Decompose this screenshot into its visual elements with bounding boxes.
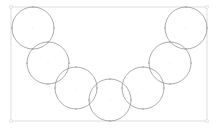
frame-corner-handle[interactable] bbox=[206, 6, 208, 8]
anchor-point[interactable] bbox=[75, 66, 76, 67]
anchor-point[interactable] bbox=[88, 99, 89, 100]
anchor-point[interactable] bbox=[32, 6, 33, 7]
anchor-point[interactable] bbox=[148, 62, 149, 63]
anchor-point[interactable] bbox=[54, 87, 55, 88]
anchor-point[interactable] bbox=[96, 87, 97, 88]
circle-group bbox=[11, 6, 207, 121]
bounding-frame bbox=[11, 7, 207, 121]
frame-corner-handle[interactable] bbox=[10, 120, 12, 122]
frame-corner-handle[interactable] bbox=[10, 6, 12, 8]
anchor-point[interactable] bbox=[185, 48, 186, 49]
anchor-point[interactable] bbox=[109, 120, 110, 121]
frame-corner-handle[interactable] bbox=[206, 120, 208, 122]
anchor-point[interactable] bbox=[47, 41, 48, 42]
anchor-point[interactable] bbox=[109, 78, 110, 79]
center-point bbox=[33, 28, 34, 29]
center-point bbox=[110, 100, 111, 101]
anchor-point[interactable] bbox=[164, 27, 165, 28]
anchor-point[interactable] bbox=[47, 83, 48, 84]
diagram-canvas bbox=[0, 0, 219, 128]
anchor-point[interactable] bbox=[26, 62, 27, 63]
anchor-point[interactable] bbox=[206, 27, 207, 28]
anchor-point[interactable] bbox=[169, 83, 170, 84]
center-point bbox=[186, 28, 187, 29]
anchor-point[interactable] bbox=[11, 27, 12, 28]
anchor-point[interactable] bbox=[142, 66, 143, 67]
anchor-point[interactable] bbox=[75, 108, 76, 109]
anchor-point[interactable] bbox=[163, 87, 164, 88]
anchor-point[interactable] bbox=[68, 62, 69, 63]
anchor-point[interactable] bbox=[190, 62, 191, 63]
center-point bbox=[48, 63, 49, 64]
center-point bbox=[76, 88, 77, 89]
anchor-point[interactable] bbox=[130, 99, 131, 100]
center-point bbox=[170, 63, 171, 64]
center-point bbox=[143, 88, 144, 89]
anchor-point[interactable] bbox=[142, 108, 143, 109]
anchor-point[interactable] bbox=[185, 6, 186, 7]
anchor-point[interactable] bbox=[121, 87, 122, 88]
circles-diagram bbox=[0, 0, 219, 128]
anchor-point[interactable] bbox=[53, 27, 54, 28]
